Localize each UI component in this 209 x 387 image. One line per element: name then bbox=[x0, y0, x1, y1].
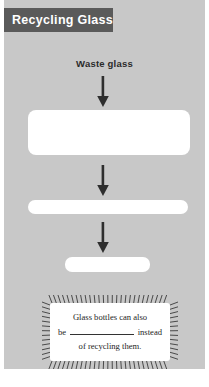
callout-blank-field[interactable] bbox=[70, 325, 134, 335]
callout-box: Glass bottles can also be instead of rec… bbox=[40, 294, 180, 370]
callout-inner: Glass bottles can also be instead of rec… bbox=[50, 303, 170, 361]
callout-line-1: Glass bottles can also bbox=[56, 311, 164, 325]
answer-box-3[interactable] bbox=[65, 257, 150, 272]
callout-line-2-before: be bbox=[58, 326, 66, 340]
callout-line-2-after: instead bbox=[138, 326, 162, 340]
callout-line-3: of recycling them. bbox=[56, 340, 164, 354]
down-arrow-icon bbox=[96, 165, 110, 197]
page-title: Recycling Glass bbox=[12, 13, 113, 27]
down-arrow-icon bbox=[96, 222, 110, 254]
title-banner: Recycling Glass bbox=[4, 8, 113, 32]
flow-input-label: Waste glass bbox=[0, 58, 209, 69]
answer-box-1[interactable] bbox=[28, 110, 190, 155]
callout-line-2: be instead bbox=[56, 325, 164, 340]
worksheet-page: Recycling Glass Waste glass Glass bbox=[0, 0, 209, 387]
answer-box-2[interactable] bbox=[28, 200, 188, 214]
down-arrow-icon bbox=[96, 76, 110, 108]
